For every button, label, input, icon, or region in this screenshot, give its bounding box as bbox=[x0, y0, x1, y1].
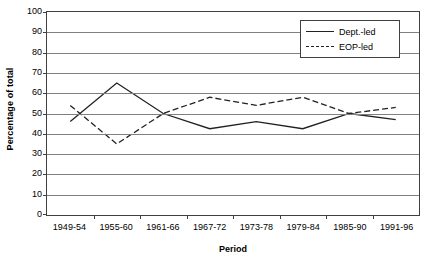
y-axis-tick-label: 30 bbox=[18, 149, 42, 158]
y-axis-tick-label: 70 bbox=[18, 67, 42, 76]
y-axis-tick-mark bbox=[43, 12, 47, 13]
y-axis-tick-label: 100 bbox=[18, 7, 42, 16]
gridline bbox=[47, 114, 419, 115]
legend-swatch-solid-line-icon bbox=[305, 27, 335, 37]
x-axis-tick-labels: 1949-541955-601961-661967-721973-781979-… bbox=[46, 222, 420, 236]
gridline bbox=[47, 134, 419, 135]
x-axis-tick-label: 1967-72 bbox=[186, 222, 233, 236]
gridline bbox=[47, 174, 419, 175]
y-axis-tick-mark bbox=[43, 114, 47, 115]
y-axis-tick-labels: 0102030405060708090100 bbox=[18, 0, 42, 218]
y-axis-tick-label: 90 bbox=[18, 27, 42, 36]
x-axis-tick-mark bbox=[233, 215, 234, 219]
y-axis-tick-label: 80 bbox=[18, 47, 42, 56]
y-axis-tick-label: 20 bbox=[18, 169, 42, 178]
x-axis-tick-mark bbox=[326, 215, 327, 219]
y-axis-tick-mark bbox=[43, 214, 47, 215]
gridline bbox=[47, 154, 419, 155]
x-axis-tick-label: 1979-84 bbox=[280, 222, 327, 236]
y-axis-title: Percentage of total bbox=[5, 68, 15, 151]
y-axis-tick-mark bbox=[43, 195, 47, 196]
y-axis-tick-mark bbox=[43, 174, 47, 175]
y-axis-tick-mark bbox=[43, 73, 47, 74]
legend-swatch-dashed-line-icon bbox=[305, 42, 335, 52]
series-line-eop-led bbox=[70, 97, 396, 144]
legend-label-dept-led: Dept.-led bbox=[335, 27, 376, 37]
x-axis-tick-label: 1949-54 bbox=[46, 222, 93, 236]
x-axis-tick-mark bbox=[373, 215, 374, 219]
legend-item-eop-led: EOP-led bbox=[305, 39, 395, 54]
y-axis-tick-mark bbox=[43, 93, 47, 94]
x-axis-tick-mark bbox=[94, 215, 95, 219]
gridline bbox=[47, 195, 419, 196]
y-axis-tick-label: 40 bbox=[18, 128, 42, 137]
y-axis-tick-label: 10 bbox=[18, 189, 42, 198]
y-axis-tick-mark bbox=[43, 53, 47, 54]
y-axis-tick-mark bbox=[43, 134, 47, 135]
x-axis-tick-label: 1955-60 bbox=[93, 222, 140, 236]
x-axis-tick-label: 1985-90 bbox=[327, 222, 374, 236]
y-axis-tick-mark bbox=[43, 154, 47, 155]
y-axis-tick-label: 60 bbox=[18, 88, 42, 97]
x-axis-title: Period bbox=[46, 244, 420, 254]
x-axis-tick-label: 1973-78 bbox=[233, 222, 280, 236]
gridline bbox=[47, 73, 419, 74]
x-axis-tick-label: 1991-96 bbox=[373, 222, 420, 236]
legend: Dept.-led EOP-led bbox=[300, 20, 400, 58]
x-axis-tick-mark bbox=[187, 215, 188, 219]
line-chart: Percentage of total 01020304050607080901… bbox=[0, 0, 435, 269]
gridline bbox=[47, 93, 419, 94]
y-axis-title-container: Percentage of total bbox=[0, 0, 20, 218]
series-line-dept-led bbox=[70, 83, 396, 129]
legend-label-eop-led: EOP-led bbox=[335, 42, 373, 52]
y-axis-tick-label: 50 bbox=[18, 108, 42, 117]
y-axis-tick-mark bbox=[43, 32, 47, 33]
x-axis-tick-mark bbox=[140, 215, 141, 219]
x-axis-tick-label: 1961-66 bbox=[140, 222, 187, 236]
legend-item-dept-led: Dept.-led bbox=[305, 24, 395, 39]
y-axis-tick-label: 0 bbox=[18, 210, 42, 219]
x-axis-tick-mark bbox=[280, 215, 281, 219]
